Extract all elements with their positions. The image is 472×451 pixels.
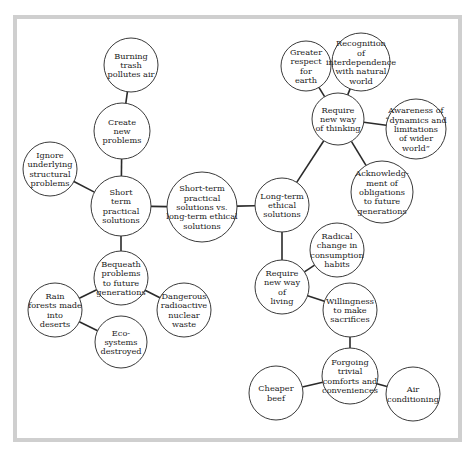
node-radical-change: Radicalchange inconsumptionhabits [310,223,364,277]
nodes-layer: Short-termpracticalsolutions vs.long-ter… [23,33,447,421]
node-center: Short-termpracticalsolutions vs.long-ter… [166,172,238,242]
node-label-line: problems [31,178,70,188]
node-rain-forests: Rainforests madeintodeserts [28,283,82,337]
node-label-line: beef [267,393,286,403]
node-new-thinking: Requirenew wayof thinking [312,93,364,145]
connector-short_term-ignore_underlying [74,182,95,193]
node-forgoing: Forgoingtrivialcomforts andconveniences [322,348,378,404]
node-label-line: conditioning [387,394,439,404]
connector-new_living-willingness [308,296,325,302]
node-label-line: waste [172,319,196,329]
node-greater-respect: Greaterrespectforearth [281,41,331,91]
node-label-line: living [271,296,294,306]
connector-new_thinking-recognition [348,89,350,95]
connector-new_thinking-awareness [364,122,386,125]
node-create-new: Createnewproblems [94,103,150,159]
connector-create_new-burning_trash [126,92,128,104]
connector-bequeath-rain_forests [79,290,96,298]
connector-long_term-new_thinking [297,141,324,183]
node-label-line: solutions [102,215,139,225]
node-bequeath: Bequeathproblemsto futuregenerations [94,251,148,305]
connector-bequeath-dangerous_waste [145,290,160,298]
node-short-term: Shorttermpracticalsolutions [91,176,151,236]
node-label-line: problems [103,135,142,145]
connector-forgoing-cheaper_beef [302,382,322,387]
node-air-conditioning: Airconditioning [386,367,440,421]
node-label-line: sacrifices [330,314,369,324]
node-recognition: Recognitionofinterdependencewith natural… [326,33,396,91]
node-dangerous-waste: Dangerousradioactivenuclearwaste [157,283,211,337]
node-new-living: Requirenew wayofliving [255,260,309,314]
node-label-line: world” [402,143,430,153]
node-ecosystems: Eco-systemsdestroyed [95,316,147,368]
node-label-line: destroyed [100,346,141,356]
node-label-line: generations [357,206,406,216]
node-acknowledgment: Acknowledg-ment ofobligationsto futurege… [351,161,413,223]
node-ignore-underlying: Ignoreunderlyingstructuralproblems [23,142,77,196]
node-label-line: deserts [40,319,71,329]
connector-new_thinking-greater_respect [319,87,325,96]
node-cheaper-beef: Cheaperbeef [249,366,303,420]
connector-new_thinking-acknowledgment [351,141,366,165]
node-label-line: world [349,76,373,86]
connector-new_living-radical_change [304,265,314,272]
node-burning-trash: Burningtrashpollutes air [104,38,158,92]
node-label-line: earth [295,75,318,85]
node-label-line: generations [96,287,145,297]
node-label-line: habits [324,259,350,269]
node-label-line: of thinking [315,123,360,133]
connector-rain_forests-ecosystems [79,322,97,331]
node-label-line: pollutes air [107,69,154,79]
node-label-line: solutions [183,221,220,231]
node-label-line: conveniences [322,385,378,395]
node-label-line: solutions [263,209,300,219]
node-awareness: Awareness of“dynamics andlimitationsof w… [385,99,446,159]
node-long-term: Long-termethicalsolutions [255,178,309,232]
concept-map-diagram: Short-termpracticalsolutions vs.long-ter… [0,0,472,451]
node-willingness: Willingnessto makesacrifices [323,283,377,337]
connector-forgoing-air_conditioning [377,384,387,387]
